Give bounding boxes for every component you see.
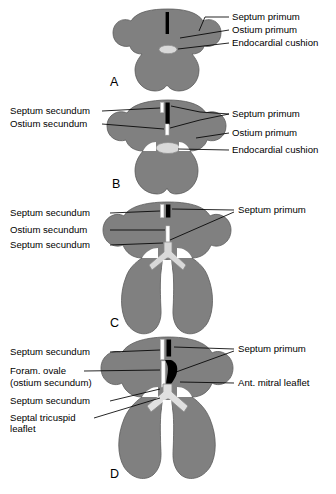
panel-a-septum-primum [166, 12, 169, 34]
label-d-septal-tricuspid-line2: leaflet [10, 423, 36, 434]
panel-b-endocardial-cushion [156, 143, 180, 154]
panel-b [107, 100, 226, 194]
cardiac-septation-diagram: Septum primum Ostium primum Endocardial … [0, 0, 336, 494]
label-d-ant-mitral-leaflet: Ant. mitral leaflet [238, 377, 310, 388]
label-b-ostium-secundum: Ostium secundum [10, 118, 87, 129]
figure-root: Septum primum Ostium primum Endocardial … [0, 0, 336, 494]
label-a-endocardial-cushion: Endocardial cushion [232, 37, 318, 48]
label-a-ostium-primum: Ostium primum [232, 24, 297, 35]
panel-a [113, 9, 221, 91]
panel-c-septum-primum [166, 205, 170, 218]
label-d-septal-tricuspid: Septal tricuspid [10, 412, 76, 423]
panel-d-ventricular-channel [161, 400, 172, 462]
label-b-septum-primum: Septum primum [232, 108, 300, 119]
panel-c-ostium-secundum [166, 226, 170, 243]
label-b-septum-secundum: Septum secundum [10, 105, 90, 116]
label-b-endocardial-cushion: Endocardial cushion [232, 144, 318, 155]
panel-b-septum-primum [166, 103, 170, 125]
panel-letter-c: C [110, 316, 119, 330]
panel-b-septum-secundum [161, 103, 164, 113]
label-d-septum-secundum-2: Septum secundum [10, 395, 90, 406]
label-c-septum-secundum-2: Septum secundum [10, 239, 90, 250]
label-c-septum-secundum-1: Septum secundum [10, 207, 90, 218]
label-c-ostium-secundum: Ostium secundum [10, 224, 87, 235]
panel-letter-b: B [112, 177, 120, 191]
panel-c-ventricular-channel [161, 260, 172, 318]
panel-d-foramen-ovale [162, 361, 166, 387]
label-d-foramen-ovale: Foram. ovale [10, 365, 66, 376]
label-d-ostium-secundum-paren: (ostium secundum) [10, 377, 92, 388]
panel-a-endocardial-cushion [159, 45, 177, 53]
label-d-septum-primum: Septum primum [238, 343, 306, 354]
panel-c-septum-secundum-upper [161, 205, 164, 218]
label-b-ostium-primum: Ostium primum [232, 127, 297, 138]
label-c-septum-primum: Septum primum [238, 204, 306, 215]
panel-letter-a: A [110, 75, 119, 89]
panel-d-septum-secundum-upper [161, 340, 165, 360]
panel-letter-d: D [110, 467, 119, 481]
label-a-septum-primum: Septum primum [232, 11, 300, 22]
panel-b-ostium-secundum [166, 124, 169, 135]
panel-d-septum-primum-upper [167, 340, 172, 357]
label-d-septum-secundum-1: Septum secundum [10, 346, 90, 357]
